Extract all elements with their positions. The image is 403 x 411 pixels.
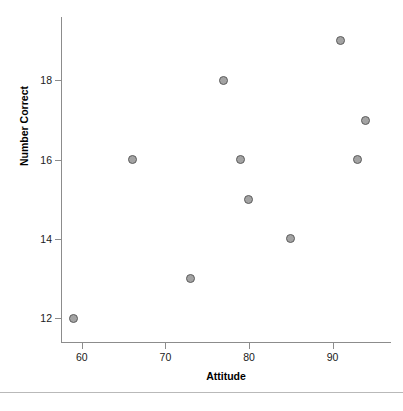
caption-divider [0,392,403,393]
data-point [69,314,78,323]
y-tick-mark [55,80,61,81]
y-tick-mark [55,160,61,161]
y-tick-label: 14 [40,234,52,245]
y-tick-label: 18 [40,75,52,86]
y-tick-label: 16 [40,155,52,166]
x-tick-mark [249,343,250,349]
plot-area [61,17,391,342]
y-axis-line [61,17,62,343]
x-tick-mark [82,343,83,349]
y-tick-mark [55,318,61,319]
y-tick-label: 12 [40,313,52,324]
data-point [361,116,370,125]
x-tick-label: 60 [76,352,88,363]
x-tick-mark [165,343,166,349]
y-tick-mark [55,239,61,240]
data-point [128,155,137,164]
caption-text [2,396,401,410]
x-tick-label: 90 [327,352,339,363]
data-point [186,274,195,283]
x-axis-title: Attitude [61,370,391,382]
y-axis-title: Number Correct [18,66,30,186]
x-tick-label: 70 [160,352,172,363]
x-tick-label: 80 [243,352,255,363]
scatter-plot-figure: 12141618 60708090 Number Correct Attitud… [0,0,403,411]
x-tick-mark [333,343,334,349]
x-axis-line [61,342,391,343]
